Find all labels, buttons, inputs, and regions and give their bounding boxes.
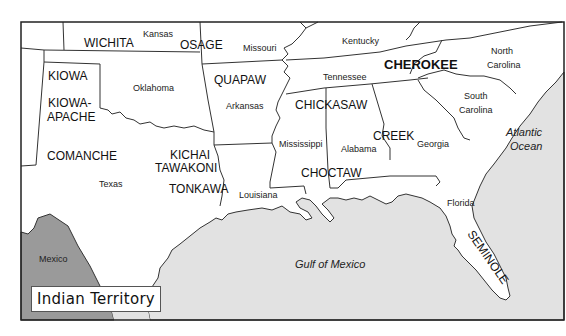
- label-mississippi: Mississippi: [279, 139, 323, 149]
- label-texas: Texas: [99, 179, 123, 189]
- tribe-comanche: COMANCHE: [47, 149, 117, 163]
- label-missouri: Missouri: [243, 43, 277, 53]
- label-south-carolina-2: Carolina: [459, 105, 493, 115]
- tribe-quapaw: QUAPAW: [214, 73, 267, 87]
- tribe-wichita: WICHITA: [84, 36, 134, 50]
- tribe-chickasaw: CHICKASAW: [295, 98, 368, 112]
- label-south-carolina-1: South: [464, 91, 488, 101]
- label-atlantic-1: Atlantic: [505, 126, 543, 138]
- label-kentucky: Kentucky: [342, 36, 380, 46]
- label-louisiana: Louisiana: [239, 190, 278, 200]
- tribe-cherokee: CHEROKEE: [384, 57, 458, 72]
- label-florida: Florida: [447, 198, 475, 208]
- label-kansas: Kansas: [143, 29, 174, 39]
- label-arkansas: Arkansas: [226, 101, 264, 111]
- tribe-creek: CREEK: [373, 129, 414, 143]
- map-title: Indian Territory: [31, 286, 161, 312]
- tribe-kichai-2: TAWAKONI: [155, 161, 217, 175]
- tribe-osage: OSAGE: [180, 38, 223, 52]
- tribe-tonkawa: TONKAWA: [169, 182, 229, 196]
- label-georgia: Georgia: [417, 139, 449, 149]
- label-gulf-of-mexico: Gulf of Mexico: [295, 258, 365, 270]
- tribe-kiowa: KIOWA: [48, 69, 88, 83]
- tribe-choctaw: CHOCTAW: [301, 166, 362, 180]
- label-mexico: Mexico: [39, 254, 68, 264]
- tribe-kiowa-apache-1: KIOWA-: [48, 96, 92, 110]
- label-north-carolina-2: Carolina: [487, 60, 521, 70]
- tribe-kiowa-apache-2: APACHE: [47, 110, 95, 124]
- tribe-kichai-1: KICHAI: [170, 148, 210, 162]
- label-alabama: Alabama: [341, 144, 377, 154]
- label-oklahoma: Oklahoma: [133, 83, 174, 93]
- label-north-carolina-1: North: [491, 46, 513, 56]
- label-atlantic-2: Ocean: [510, 140, 542, 152]
- label-tennessee: Tennessee: [323, 72, 367, 82]
